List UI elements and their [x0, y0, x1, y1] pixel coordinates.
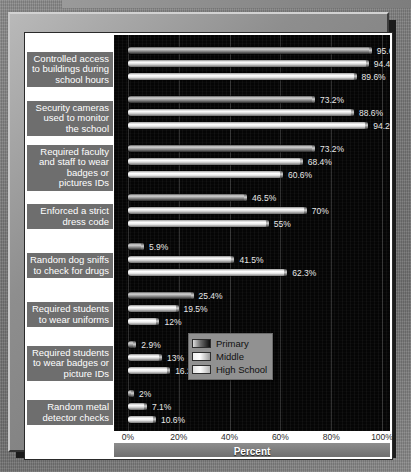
gridline	[280, 35, 281, 431]
bar-end-cap	[312, 96, 315, 103]
legend-item-primary: Primary	[192, 337, 267, 350]
bar-value-label: 55%	[274, 220, 291, 229]
category-label-line: to check for drugs	[30, 266, 109, 277]
bar-middle	[128, 403, 146, 410]
bar-value-label: 70%	[312, 207, 329, 216]
legend-label: High School	[216, 364, 267, 375]
bar-high	[128, 318, 158, 325]
bar-high	[128, 73, 356, 80]
bar-value-label: 62.3%	[292, 269, 316, 278]
bar-value-label: 73.2%	[320, 96, 344, 105]
bar-value-label: 73.2%	[320, 145, 344, 154]
bar-end-cap	[244, 194, 247, 201]
bar-end-cap	[312, 145, 315, 152]
bar-middle	[128, 109, 353, 116]
bar-value-label: 60.6%	[288, 171, 312, 180]
legend-label: Middle	[216, 351, 244, 362]
category-label: Required facultyand staff to wearbadges …	[27, 145, 113, 191]
category-label-line: Random metal	[42, 402, 109, 413]
category-label: Controlled accessto buildings duringscho…	[27, 52, 113, 88]
bar-end-cap	[280, 171, 283, 178]
x-tick-label: 40%	[221, 432, 238, 442]
legend-item-high: High School	[192, 363, 267, 376]
bar-primary	[128, 341, 135, 348]
chart-legend: PrimaryMiddleHigh School	[188, 333, 273, 380]
bar-end-cap	[156, 318, 159, 325]
legend-label: Primary	[216, 338, 249, 349]
gridline	[382, 35, 383, 431]
bar-chart: Controlled accessto buildings duringscho…	[25, 33, 392, 459]
bar-primary	[128, 194, 246, 201]
bar-end-cap	[284, 269, 287, 276]
bar-value-label: 88.6%	[359, 109, 383, 118]
category-label: Required studentsto wear uniforms	[27, 302, 113, 327]
bar-end-cap	[144, 403, 147, 410]
bar-end-cap	[369, 47, 372, 54]
bar-high	[128, 269, 286, 276]
bar-primary	[128, 243, 143, 250]
bar-end-cap	[354, 73, 357, 80]
bar-high	[128, 220, 268, 227]
legend-swatch-primary	[192, 339, 211, 348]
x-tick-label: 80%	[323, 432, 340, 442]
bar-high	[128, 122, 367, 129]
x-axis-title: Percent	[114, 445, 390, 458]
bar-end-cap	[167, 367, 170, 374]
category-label: Random dog sniffsto check for drugs	[27, 253, 113, 278]
x-tick-label: 60%	[272, 432, 289, 442]
bar-end-cap	[176, 305, 179, 312]
bar-end-cap	[365, 122, 368, 129]
category-label-line: Required students	[32, 304, 109, 315]
chart-frame-bevel: Controlled accessto buildings duringscho…	[8, 12, 389, 452]
chart-panel: Controlled accessto buildings duringscho…	[24, 32, 393, 460]
bar-value-label: 46.5%	[252, 194, 276, 203]
bar-high	[128, 416, 155, 423]
bar-end-cap	[153, 416, 156, 423]
bar-end-cap	[300, 158, 303, 165]
bar-value-label: 89.6%	[362, 73, 386, 82]
axis-title-band: Percent	[114, 443, 390, 457]
bar-end-cap	[141, 243, 144, 250]
bar-end-cap	[191, 292, 194, 299]
category-label-line: to wear uniforms	[32, 315, 109, 326]
category-label-line: dress code	[40, 217, 109, 228]
legend-item-middle: Middle	[192, 350, 267, 363]
category-label-line: detector checks	[42, 413, 109, 424]
category-label-line: and staff to wear	[39, 157, 109, 168]
bar-value-label: 95.6%	[377, 47, 390, 56]
bar-value-label: 7.1%	[152, 403, 171, 412]
bar-middle	[128, 305, 178, 312]
category-label: Enforced a strictdress code	[27, 204, 113, 229]
bar-value-label: 10.6%	[161, 416, 185, 425]
bar-high	[128, 367, 169, 374]
x-tick-label: 0%	[122, 432, 134, 442]
category-label-line: pictures IDs	[39, 178, 109, 189]
bar-end-cap	[231, 256, 234, 263]
legend-swatch-middle	[192, 352, 211, 361]
bar-end-cap	[266, 220, 269, 227]
bar-value-label: 94.4%	[374, 60, 390, 69]
bar-end-cap	[351, 109, 354, 116]
bar-middle	[128, 354, 161, 361]
x-tick-label: 20%	[170, 432, 187, 442]
bar-value-label: 68.4%	[308, 158, 332, 167]
bar-value-label: 13%	[167, 354, 184, 363]
bar-end-cap	[304, 207, 307, 214]
bar-value-label: 2.9%	[141, 341, 160, 350]
bar-end-cap	[131, 390, 134, 397]
bar-primary	[128, 145, 314, 152]
bar-value-label: 94.2%	[373, 122, 390, 131]
category-label-column: Controlled accessto buildings duringscho…	[27, 35, 113, 457]
category-label: Security camerasused to monitorthe schoo…	[27, 101, 113, 137]
bar-middle	[128, 207, 306, 214]
bar-value-label: 12%	[164, 318, 181, 327]
bar-end-cap	[159, 354, 162, 361]
plot-column: 95.6%94.4%89.6%73.2%88.6%94.2%73.2%68.4%…	[114, 35, 390, 457]
category-label-line: school hours	[32, 75, 109, 86]
bar-primary	[128, 292, 193, 299]
bar-middle	[128, 256, 233, 263]
category-label: Required studentsto wear badges orpictur…	[27, 346, 113, 382]
bar-middle	[128, 60, 368, 67]
legend-swatch-high	[192, 365, 211, 374]
bar-primary	[128, 390, 133, 397]
